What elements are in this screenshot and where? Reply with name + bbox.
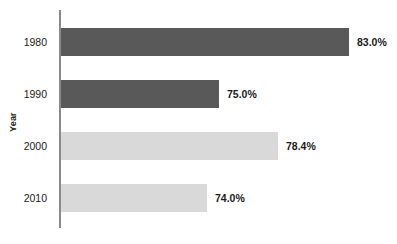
y-axis-tick-label: 1980	[0, 16, 52, 68]
bar-1980	[61, 28, 349, 56]
bar-2010	[61, 184, 207, 212]
bar-chart: Year 1980 83.0% 1990 75.0% 2000 78.4% 20…	[0, 0, 397, 244]
bar-row: 2000 78.4%	[0, 120, 397, 172]
y-axis-tick-label: 1990	[0, 68, 52, 120]
y-axis-tick-label: 2000	[0, 120, 52, 172]
bar-value-label-2000: 78.4%	[286, 132, 316, 160]
bar-1990	[61, 80, 219, 108]
bar-2000	[61, 132, 278, 160]
y-axis-tick-label: 2010	[0, 172, 52, 224]
bar-row: 1980 83.0%	[0, 16, 397, 68]
bar-value-label-1980: 83.0%	[357, 28, 387, 56]
bar-value-label-2010: 74.0%	[215, 184, 245, 212]
bar-value-label-1990: 75.0%	[227, 80, 257, 108]
bar-row: 1990 75.0%	[0, 68, 397, 120]
bar-row: 2010 74.0%	[0, 172, 397, 224]
